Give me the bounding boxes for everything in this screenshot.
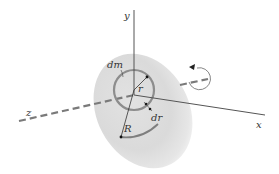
z-axis-label: z (25, 107, 32, 118)
z-axis-extension (180, 79, 208, 85)
y-axis-label: y (123, 10, 130, 21)
dr-label: dr (151, 112, 163, 123)
x-axis-label: x (256, 119, 262, 130)
R-label: R (123, 123, 132, 134)
disk-diagram: y x z dm r dr R (0, 0, 279, 174)
disk (74, 36, 212, 174)
circular-arrow-icon (189, 64, 210, 90)
dm-label: dm (107, 59, 123, 70)
